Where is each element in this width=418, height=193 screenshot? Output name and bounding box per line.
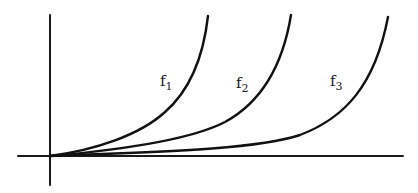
curve-label-f1: f1 bbox=[160, 72, 173, 93]
curve-label-f3: f3 bbox=[330, 72, 343, 93]
curve-f1 bbox=[50, 16, 208, 156]
curve-label-f2: f2 bbox=[236, 74, 249, 95]
growth-curves-diagram: f1 f2 f3 bbox=[0, 0, 418, 193]
